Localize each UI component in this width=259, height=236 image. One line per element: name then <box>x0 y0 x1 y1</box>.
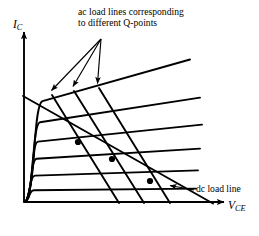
x-axis-label-main: V <box>228 199 235 211</box>
y-axis-label-subscript: C <box>17 23 23 32</box>
q-point-1 <box>75 139 81 145</box>
dc-load-line-callout-label: dc load line <box>196 184 241 195</box>
x-axis-label: VCE <box>228 199 246 213</box>
x-axis-label-subscript: CE <box>235 204 246 213</box>
ac-callout-line-1: ac load lines corresponding <box>78 6 184 17</box>
ac-load-lines-callout-label: ac load lines corresponding to different… <box>78 7 184 28</box>
load-line-figure: ac load lines corresponding to different… <box>0 0 259 236</box>
q-point-group <box>75 139 153 184</box>
y-axis-label: IC <box>13 18 22 32</box>
ic-curve-6 <box>25 60 191 203</box>
ac-callout-line-2: to different Q-points <box>78 18 184 29</box>
axis-group <box>24 32 224 202</box>
q-point-3 <box>147 178 153 184</box>
ac-callout-arrow-2 <box>73 39 101 87</box>
ac-callout-arrow-3 <box>98 39 102 84</box>
characteristic-curve-group <box>25 60 203 203</box>
characteristic-curves-plot <box>0 0 259 236</box>
ac-callout-arrow-group <box>52 39 102 91</box>
q-point-2 <box>109 156 115 162</box>
ac-callout-arrow-1 <box>52 39 102 91</box>
